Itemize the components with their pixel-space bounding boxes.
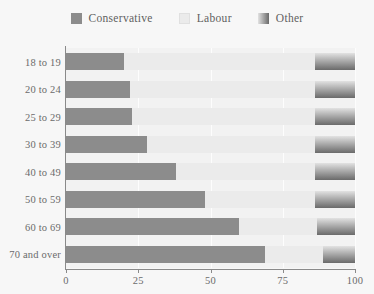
y-tick-label: 30 to 39 — [25, 139, 61, 150]
bar-row[interactable] — [66, 191, 355, 208]
bar-segment-other[interactable] — [315, 136, 355, 153]
bar-segment-conservative[interactable] — [66, 163, 176, 180]
bar-segment-other[interactable] — [315, 163, 355, 180]
y-axis-line — [65, 46, 66, 270]
bar-segment-labour[interactable] — [124, 53, 315, 70]
labour-swatch — [179, 13, 190, 24]
bar-segment-labour[interactable] — [176, 163, 315, 180]
bar-row[interactable] — [66, 53, 355, 70]
bar-group — [66, 48, 355, 268]
bar-segment-conservative[interactable] — [66, 246, 265, 263]
bar-segment-other[interactable] — [315, 108, 355, 125]
bar-segment-other[interactable] — [317, 218, 355, 235]
bar-segment-labour[interactable] — [147, 136, 315, 153]
legend-label-labour: Labour — [197, 12, 232, 24]
bar-segment-labour[interactable] — [205, 191, 315, 208]
x-axis-labels: 0255075100 — [0, 275, 374, 291]
bar-row[interactable] — [66, 163, 355, 180]
bar-segment-conservative[interactable] — [66, 108, 132, 125]
bar-segment-conservative[interactable] — [66, 136, 147, 153]
bar-segment-labour[interactable] — [132, 108, 314, 125]
bar-row[interactable] — [66, 81, 355, 98]
legend-item-conservative[interactable]: Conservative — [71, 12, 153, 24]
y-tick-label: 70 and over — [9, 249, 61, 260]
y-tick-label: 60 to 69 — [25, 221, 61, 232]
y-axis-labels: 18 to 1920 to 2425 to 2930 to 3940 to 49… — [0, 48, 61, 268]
x-tick-mark — [283, 269, 284, 273]
legend-item-other[interactable]: Other — [258, 12, 304, 24]
bar-segment-other[interactable] — [315, 53, 355, 70]
bar-segment-conservative[interactable] — [66, 53, 124, 70]
other-swatch — [258, 13, 269, 24]
y-tick-label: 40 to 49 — [25, 166, 61, 177]
x-tick-mark — [66, 269, 67, 273]
y-tick-label: 25 to 29 — [25, 111, 61, 122]
legend-label-other: Other — [276, 12, 304, 24]
bar-row[interactable] — [66, 136, 355, 153]
x-tick-label: 0 — [63, 275, 68, 286]
conservative-swatch — [71, 13, 82, 24]
bar-segment-other[interactable] — [315, 191, 355, 208]
x-tick-mark — [211, 269, 212, 273]
bar-segment-conservative[interactable] — [66, 81, 130, 98]
x-tick-mark — [355, 269, 356, 273]
bar-row[interactable] — [66, 218, 355, 235]
plot-area — [66, 48, 355, 268]
bar-segment-other[interactable] — [315, 81, 355, 98]
legend-label-conservative: Conservative — [89, 12, 153, 24]
chart-legend: Conservative Labour Other — [0, 8, 374, 28]
x-tick-label: 50 — [205, 275, 216, 286]
bar-segment-labour[interactable] — [130, 81, 315, 98]
legend-item-labour[interactable]: Labour — [179, 12, 232, 24]
stacked-bar-chart: Conservative Labour Other 18 to 1920 to … — [0, 0, 374, 294]
y-tick-label: 20 to 24 — [25, 84, 61, 95]
x-tick-label: 100 — [347, 275, 363, 286]
x-tick-label: 25 — [133, 275, 144, 286]
x-tick-mark — [138, 269, 139, 273]
bar-segment-labour[interactable] — [239, 218, 317, 235]
y-tick-label: 50 to 59 — [25, 194, 61, 205]
y-tick-label: 18 to 19 — [25, 56, 61, 67]
bar-segment-conservative[interactable] — [66, 191, 205, 208]
gridline — [355, 48, 356, 268]
bar-segment-conservative[interactable] — [66, 218, 239, 235]
bar-segment-labour[interactable] — [265, 246, 323, 263]
bar-segment-other[interactable] — [323, 246, 355, 263]
bar-row[interactable] — [66, 246, 355, 263]
bar-row[interactable] — [66, 108, 355, 125]
x-tick-label: 75 — [277, 275, 288, 286]
